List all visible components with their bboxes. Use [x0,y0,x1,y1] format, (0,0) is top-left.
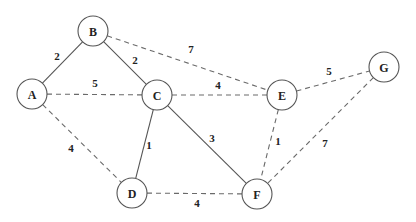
node-label: D [128,187,137,201]
edge-c-f [168,106,247,184]
node-g: G [369,52,399,82]
edge-weight-e-f: 1 [275,135,281,147]
edge-e-g [296,71,369,91]
edge-a-c [47,94,142,95]
edges-layer [42,36,373,194]
edge-a-d [43,105,122,183]
node-label: E [278,89,286,103]
node-a: A [17,79,47,109]
edge-d-f [147,193,242,194]
node-label: F [253,188,260,202]
edge-weight-a-c: 5 [92,77,98,89]
weights-layer: 225745413147 [54,43,332,209]
edge-weight-b-c: 2 [132,54,138,66]
edge-weight-c-d: 1 [146,139,152,151]
edge-weight-c-f: 3 [209,132,215,144]
graph-diagram: 225745413147 ABCDEFG [0,0,416,222]
node-d: D [117,178,147,208]
nodes-layer: ABCDEFG [17,16,399,209]
node-label: G [379,61,388,75]
node-e: E [267,80,297,110]
node-label: C [153,89,162,103]
node-label: B [89,25,97,39]
node-label: A [28,88,37,102]
edge-weight-a-d: 4 [68,142,74,154]
edge-weight-c-e: 4 [215,79,221,91]
edge-weight-a-b: 2 [54,50,60,62]
edge-weight-e-g: 5 [326,65,332,77]
node-f: F [242,179,272,209]
node-c: C [142,80,172,110]
edge-a-b [42,42,82,83]
node-b: B [78,16,108,46]
edge-b-c [104,42,147,85]
edge-weight-d-f: 4 [194,197,200,209]
edge-weight-b-e: 7 [188,43,194,55]
edge-weight-g-f: 7 [322,137,328,149]
